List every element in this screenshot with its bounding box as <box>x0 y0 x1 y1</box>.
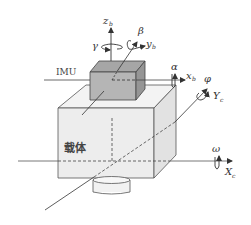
yc-axis-lower <box>45 177 94 210</box>
beta-label: β <box>137 25 144 36</box>
beta-rotation-icon <box>127 41 145 50</box>
yc-axis-upper <box>175 89 207 122</box>
xc-label-sub: c <box>232 172 236 179</box>
yb-label: y <box>145 38 152 49</box>
yb-label-sub: b <box>152 43 156 50</box>
imu-front-face <box>90 72 136 100</box>
phi-label: φ <box>204 73 211 84</box>
gamma-rotation-icon <box>101 44 122 50</box>
omega-label: ω <box>212 143 220 154</box>
xb-label-sub: b <box>192 75 196 82</box>
imu-label: IMU <box>56 67 77 77</box>
zb-label: z <box>102 15 109 26</box>
alpha-label: α <box>171 61 178 72</box>
gamma-label: γ <box>92 40 98 51</box>
zb-label-sub: b <box>109 20 113 27</box>
cylinder-mount <box>93 177 130 195</box>
imu-carrier-diagram: IMU 载体 z b γ β y b α x b φ Y c ω X c <box>0 0 251 225</box>
carrier-label: 载体 <box>64 141 87 155</box>
imu-box <box>90 61 145 100</box>
yc-label-sub: c <box>220 96 224 103</box>
omega-rotation-icon <box>215 156 219 169</box>
